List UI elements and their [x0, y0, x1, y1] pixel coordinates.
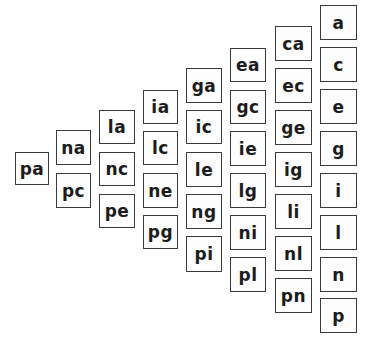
letter-card-label: pl	[239, 265, 258, 285]
letter-card-label: nc	[105, 159, 128, 179]
letter-card: nl	[275, 236, 312, 271]
letter-card: li	[275, 194, 312, 229]
letter-card-label: ca	[282, 34, 305, 54]
letter-card: pl	[230, 257, 266, 292]
letter-card-label: ng	[191, 202, 216, 222]
letter-card: ga	[186, 68, 222, 103]
letter-card-label: ec	[282, 76, 305, 96]
letter-card: ia	[143, 90, 178, 124]
letter-card-label: li	[287, 202, 300, 222]
letter-card-label: lg	[239, 181, 258, 201]
letter-card: la	[99, 110, 135, 144]
letter-card-label: pn	[281, 286, 306, 306]
letter-card-label: c	[333, 55, 344, 75]
letter-card-label: pg	[148, 222, 173, 242]
letter-card: gc	[230, 90, 266, 124]
letter-card: ea	[230, 48, 266, 82]
letter-card-label: na	[61, 138, 86, 158]
letter-card-label: nl	[284, 244, 303, 264]
letter-card-label: ga	[192, 76, 217, 96]
letter-card-label: i	[335, 181, 341, 201]
letter-pair-pyramid: panapclancpeialcnepggaiclengpieagcielgni…	[0, 0, 367, 345]
letter-card: ie	[230, 131, 266, 166]
letter-card: g	[320, 131, 357, 166]
letter-card-label: lc	[152, 138, 169, 158]
letter-card-label: ne	[148, 181, 173, 201]
letter-card-label: ig	[284, 160, 303, 180]
letter-card-label: la	[108, 117, 126, 137]
letter-card-label: a	[333, 13, 345, 33]
letter-card: ng	[186, 194, 222, 229]
letter-card-label: pa	[20, 159, 45, 179]
letter-card: nc	[99, 152, 135, 186]
letter-card: c	[320, 47, 357, 82]
letter-card: le	[186, 152, 222, 187]
letter-card-label: ie	[239, 139, 257, 159]
letter-card: ec	[275, 68, 312, 103]
letter-card-label: ia	[151, 97, 169, 117]
letter-card: pe	[99, 194, 135, 228]
letter-card-label: n	[332, 265, 345, 285]
letter-card: ni	[230, 215, 266, 250]
letter-card: ge	[275, 110, 312, 145]
letter-card-label: ni	[239, 223, 258, 243]
letter-card: ca	[275, 26, 312, 61]
letter-card: lg	[230, 173, 266, 208]
letter-card: i	[320, 173, 357, 208]
letter-card: ne	[143, 173, 178, 208]
letter-card: na	[56, 130, 91, 165]
letter-card: p	[320, 298, 357, 333]
letter-card: pn	[275, 278, 312, 313]
letter-card: ic	[186, 110, 222, 144]
letter-card-label: p	[332, 306, 345, 326]
letter-card: lc	[143, 131, 178, 165]
letter-card-label: e	[332, 97, 344, 117]
letter-card-label: pc	[62, 181, 85, 201]
letter-card: n	[320, 257, 357, 292]
letter-card-label: ge	[281, 118, 306, 138]
letter-card-label: l	[335, 223, 341, 243]
letter-card-label: pi	[195, 244, 214, 264]
letter-card: ig	[275, 152, 312, 187]
letter-card: pa	[15, 152, 49, 185]
letter-card: l	[320, 215, 357, 250]
letter-card: pi	[186, 236, 222, 272]
letter-card-label: le	[195, 160, 213, 180]
letter-card-label: ea	[236, 55, 260, 75]
letter-card: pc	[56, 173, 91, 208]
letter-card: e	[320, 89, 357, 124]
letter-card: pg	[143, 215, 178, 249]
letter-card-label: pe	[105, 201, 130, 221]
letter-card: a	[320, 5, 357, 40]
letter-card-label: g	[332, 139, 345, 159]
letter-card-label: gc	[236, 97, 259, 117]
letter-card-label: ic	[196, 117, 213, 137]
